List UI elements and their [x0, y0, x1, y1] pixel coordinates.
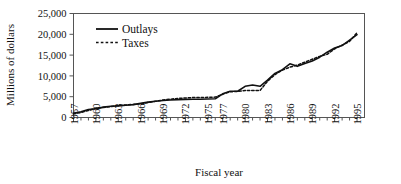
series-line-taxes	[74, 33, 358, 114]
legend-label-taxes: Taxes	[122, 37, 149, 49]
x-tick-label: 1975	[203, 104, 214, 125]
y-tick-label: 0	[61, 112, 66, 123]
y-tick-label: 20,000	[38, 29, 67, 40]
y-axis-title: Millions of dollars	[4, 24, 16, 106]
legend-label-outlays: Outlays	[122, 23, 158, 36]
x-tick-label: 1986	[285, 104, 296, 125]
chart-container: 05,00010,00015,00020,00025,000 195719601…	[0, 0, 401, 184]
x-tick-label: 1983	[263, 104, 274, 125]
x-tick-label: 1960	[91, 104, 102, 125]
x-tick-label: 1992	[330, 104, 341, 125]
y-tick-label: 5,000	[43, 91, 67, 102]
chart-legend: OutlaysTaxes	[96, 23, 158, 49]
x-tick-label: 1980	[240, 104, 251, 125]
y-tick-label: 15,000	[38, 50, 67, 61]
x-tick-label: 1969	[158, 104, 169, 125]
x-tick-label: 1995	[352, 104, 363, 125]
data-series-group	[74, 33, 358, 114]
x-axis-title: Fiscal year	[195, 166, 243, 178]
y-tick-label: 25,000	[38, 8, 67, 19]
series-line-outlays	[74, 35, 358, 114]
line-chart-svg: 05,00010,00015,00020,00025,000 195719601…	[0, 0, 401, 184]
y-tick-label: 10,000	[38, 71, 67, 82]
x-tick-label: 1989	[307, 104, 318, 125]
x-tick-label: 1977	[218, 104, 229, 125]
x-tick-label: 1972	[180, 104, 191, 125]
x-tick-label: 1966	[136, 104, 147, 125]
